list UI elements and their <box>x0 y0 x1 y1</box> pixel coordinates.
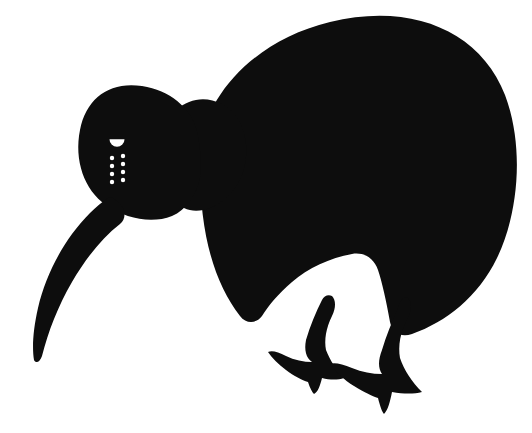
kiwi-cheek-dot <box>110 172 114 176</box>
image-canvas: Kiwi <box>0 0 532 433</box>
kiwi-bird-illustration: Kiwi <box>0 0 532 433</box>
kiwi-cheek-dot <box>121 170 125 174</box>
kiwi-cheek-dot <box>110 180 114 184</box>
kiwi-cheek-dot <box>121 154 125 158</box>
kiwi-cheek-dot <box>110 156 114 160</box>
kiwi-cheek-dot <box>110 164 114 168</box>
kiwi-cheek-dot <box>121 178 125 182</box>
kiwi-cheek-dot <box>121 162 125 166</box>
